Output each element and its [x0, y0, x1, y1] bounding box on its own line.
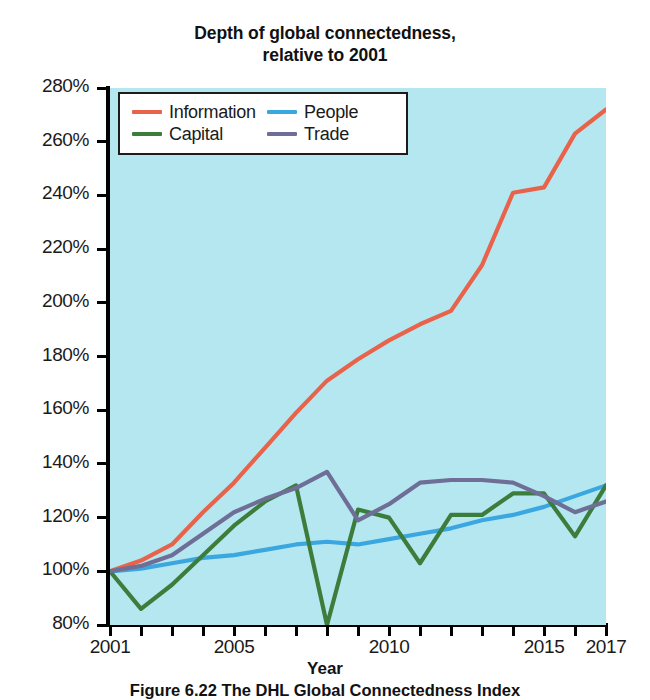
y-tick-label: 220% — [5, 236, 89, 258]
y-tick-mark — [97, 194, 106, 197]
x-tick-mark — [605, 627, 608, 636]
legend-swatch-icon — [132, 110, 162, 114]
x-tick-label: 2015 — [524, 636, 565, 658]
x-tick-mark — [202, 627, 205, 636]
x-tick-mark — [512, 627, 515, 636]
legend-item-trade[interactable]: Trade — [267, 125, 396, 144]
plot-area — [110, 88, 606, 625]
x-tick-mark — [140, 627, 143, 636]
x-tick-mark — [295, 627, 298, 636]
x-tick-mark — [171, 627, 174, 636]
y-tick-label: 120% — [5, 505, 89, 527]
y-tick-label: 200% — [5, 290, 89, 312]
legend-swatch-icon — [132, 132, 162, 136]
y-tick-mark — [97, 301, 106, 304]
x-tick-mark — [481, 627, 484, 636]
y-tick-mark — [97, 355, 106, 358]
y-tick-mark — [97, 140, 106, 143]
legend-item-label: Trade — [304, 125, 349, 144]
x-tick-mark — [357, 627, 360, 636]
legend-item-label: Information — [169, 103, 256, 122]
legend-item-capital[interactable]: Capital — [132, 125, 261, 144]
legend-item-people[interactable]: People — [267, 103, 396, 122]
figure-caption: Figure 6.22 The DHL Global Connectedness… — [0, 681, 650, 700]
legend-item-label: Capital — [169, 125, 223, 144]
series-line-information — [110, 109, 606, 571]
x-tick-mark — [388, 627, 391, 636]
y-tick-label: 160% — [5, 397, 89, 419]
y-tick-mark — [97, 87, 106, 90]
chart-title-line-1: Depth of global connectedness, — [0, 22, 650, 44]
legend: InformationPeopleCapitalTrade — [118, 92, 408, 155]
series-lines — [110, 88, 606, 625]
x-axis-title: Year — [0, 659, 650, 679]
legend-item-information[interactable]: Information — [132, 103, 261, 122]
x-tick-label: 2005 — [214, 636, 255, 658]
x-tick-mark — [450, 627, 453, 636]
x-tick-mark — [543, 627, 546, 636]
y-tick-label: 80% — [5, 612, 89, 634]
legend-swatch-icon — [267, 132, 297, 136]
y-tick-label: 140% — [5, 451, 89, 473]
y-tick-mark — [97, 516, 106, 519]
x-tick-mark — [233, 627, 236, 636]
x-tick-mark — [326, 627, 329, 636]
x-tick-mark — [419, 627, 422, 636]
x-tick-mark — [574, 627, 577, 636]
legend-item-label: People — [304, 103, 358, 122]
y-tick-label: 180% — [5, 344, 89, 366]
y-tick-mark — [97, 248, 106, 251]
y-tick-mark — [97, 409, 106, 412]
y-tick-mark — [97, 570, 106, 573]
x-tick-label: 2017 — [586, 636, 627, 658]
series-line-trade — [110, 472, 606, 571]
x-tick-mark — [264, 627, 267, 636]
x-tick-mark — [109, 627, 112, 636]
legend-swatch-icon — [267, 110, 297, 114]
chart-title: Depth of global connectedness, relative … — [0, 22, 650, 67]
y-tick-label: 260% — [5, 129, 89, 151]
y-tick-mark — [97, 462, 106, 465]
y-tick-mark — [97, 624, 106, 627]
x-tick-label: 2010 — [369, 636, 410, 658]
series-line-people — [110, 485, 606, 571]
chart-title-line-2: relative to 2001 — [0, 44, 650, 66]
y-tick-label: 100% — [5, 558, 89, 580]
y-tick-label: 240% — [5, 182, 89, 204]
x-tick-label: 2001 — [90, 636, 131, 658]
series-line-capital — [110, 485, 606, 625]
y-tick-label: 280% — [5, 75, 89, 97]
